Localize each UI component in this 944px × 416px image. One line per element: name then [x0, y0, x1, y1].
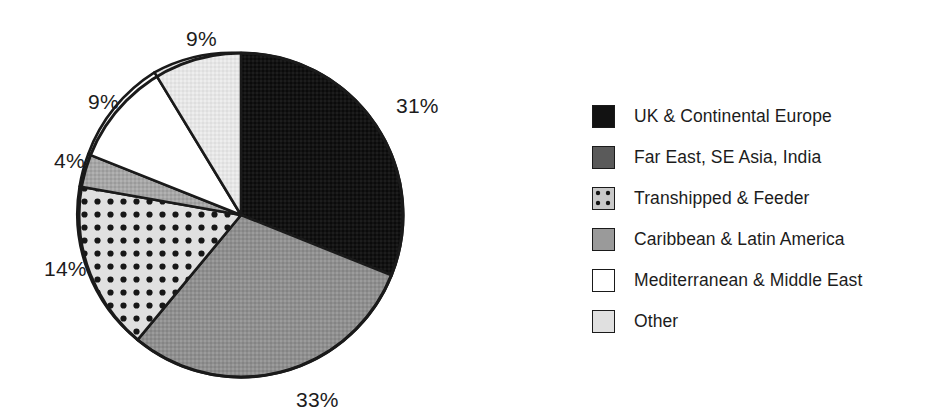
pie-label-far-east-se-asia-india: 33% [296, 389, 339, 410]
chart-legend: UK & Continental Europe Far East, SE Asi… [592, 96, 932, 342]
pie-label-caribbean-latin-america: 4% [54, 150, 85, 171]
legend-label-uk-continental-europe: UK & Continental Europe [634, 106, 832, 127]
legend-label-transhipped-feeder: Transhipped & Feeder [634, 188, 809, 209]
pie-label-other: 9% [186, 28, 217, 49]
legend-swatch-solid-dark-gray-icon [592, 146, 615, 169]
legend-label-mediterranean-middle-east: Mediterranean & Middle East [634, 270, 862, 291]
legend-item-transhipped-feeder: Transhipped & Feeder [592, 178, 932, 219]
legend-swatch-solid-white-icon [592, 269, 615, 292]
legend-swatch-dotted-icon [592, 187, 615, 210]
pie-chart-figure: 31% 33% 14% 4% 9% 9% UK & Continental Eu… [0, 0, 944, 416]
legend-swatch-solid-light-icon [592, 310, 615, 333]
legend-label-caribbean-latin-america: Caribbean & Latin America [634, 229, 845, 250]
legend-item-far-east-se-asia-india: Far East, SE Asia, India [592, 137, 932, 178]
pie-label-mediterranean-middle-east: 9% [88, 91, 119, 112]
legend-item-other: Other [592, 301, 932, 342]
legend-swatch-solid-black-icon [592, 105, 615, 128]
legend-label-other: Other [634, 311, 678, 332]
pie-svg [0, 0, 520, 416]
legend-item-mediterranean-middle-east: Mediterranean & Middle East [592, 260, 932, 301]
pie-label-transhipped-feeder: 14% [44, 258, 87, 279]
legend-item-caribbean-latin-america: Caribbean & Latin America [592, 219, 932, 260]
legend-swatch-solid-gray-icon [592, 228, 615, 251]
pie-label-uk-continental-europe: 31% [396, 95, 439, 116]
legend-label-far-east-se-asia-india: Far East, SE Asia, India [634, 147, 821, 168]
pie-plot-area: 31% 33% 14% 4% 9% 9% [0, 0, 520, 416]
legend-item-uk-continental-europe: UK & Continental Europe [592, 96, 932, 137]
